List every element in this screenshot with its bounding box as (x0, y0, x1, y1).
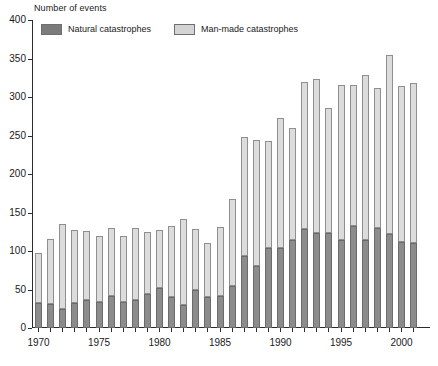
bar-segment-natural (410, 243, 417, 328)
bar-stack (156, 230, 163, 328)
bar-stack (83, 231, 90, 328)
x-tick-mark (50, 328, 51, 332)
chart-container: Number of events Natural catastrophes Ma… (0, 0, 438, 366)
x-tick-mark (159, 328, 160, 332)
y-tick-label: 0 (20, 323, 26, 333)
bar-segment-manmade (325, 108, 332, 233)
bar-segment-manmade (338, 85, 345, 241)
bar-segment-manmade (108, 228, 115, 296)
x-tick-mark (280, 328, 281, 332)
bar-segment-natural (217, 296, 224, 328)
plot-area: 050100150200250300350400 197019751980198… (32, 20, 430, 328)
bar-segment-natural (83, 300, 90, 328)
bar-segment-natural (168, 297, 175, 328)
bar-segment-manmade (229, 199, 236, 286)
bar-stack (192, 229, 199, 328)
x-tick-mark (304, 328, 305, 332)
bar-stack (362, 75, 369, 328)
bar-segment-natural (253, 266, 260, 328)
bar-segment-manmade (144, 232, 151, 294)
bar-segment-manmade (192, 229, 199, 289)
bar-stack (313, 79, 320, 328)
bar-segment-natural (265, 248, 272, 328)
y-tick-label: 50 (15, 285, 26, 295)
x-tick-label: 1975 (88, 338, 110, 348)
bar-segment-manmade (47, 239, 54, 304)
bar-stack (289, 128, 296, 328)
bar-stack (132, 228, 139, 328)
bar-segment-manmade (386, 55, 393, 234)
bar-stack (241, 137, 248, 328)
bar-segment-manmade (96, 236, 103, 302)
bar-stack (277, 118, 284, 328)
bar-segment-natural (398, 242, 405, 328)
x-tick-label: 1985 (209, 338, 231, 348)
x-tick-label: 2000 (390, 338, 412, 348)
bar-stack (374, 88, 381, 328)
bar-stack (229, 199, 236, 328)
bar-stack (168, 226, 175, 328)
bar-segment-natural (313, 233, 320, 328)
bar-segment-manmade (180, 219, 187, 305)
bar-stack (180, 219, 187, 328)
y-tick-label: 100 (9, 246, 26, 256)
bar-segment-manmade (120, 236, 127, 302)
x-tick-mark (111, 328, 112, 332)
bar-segment-manmade (168, 226, 175, 297)
x-tick-mark (38, 328, 39, 332)
x-tick-mark (135, 328, 136, 332)
bar-segment-natural (144, 294, 151, 328)
bar-segment-manmade (313, 79, 320, 233)
x-tick-mark (232, 328, 233, 332)
x-tick-mark (183, 328, 184, 332)
bar-segment-natural (241, 256, 248, 328)
bar-stack (144, 232, 151, 328)
y-tick-mark (28, 328, 32, 329)
bar-segment-natural (35, 303, 42, 328)
x-tick-mark (147, 328, 148, 332)
x-tick-mark (292, 328, 293, 332)
x-tick-mark (377, 328, 378, 332)
x-tick-mark (62, 328, 63, 332)
y-tick-label: 200 (9, 169, 26, 179)
y-tick-label: 350 (9, 54, 26, 64)
bar-segment-manmade (132, 228, 139, 300)
bar-segment-natural (156, 288, 163, 328)
x-tick-mark (220, 328, 221, 332)
bar-segment-natural (386, 234, 393, 328)
bar-segment-natural (192, 290, 199, 329)
bar-stack (265, 141, 272, 328)
bar-segment-natural (362, 240, 369, 328)
bar-segment-manmade (362, 75, 369, 240)
bar-stack (325, 108, 332, 328)
bar-segment-natural (180, 305, 187, 328)
bar-segment-natural (132, 300, 139, 328)
x-tick-mark (74, 328, 75, 332)
bar-segment-manmade (204, 243, 211, 297)
y-tick-label: 300 (9, 92, 26, 102)
bar-segment-manmade (35, 253, 42, 304)
x-tick-mark (401, 328, 402, 332)
bar-stack (108, 228, 115, 328)
x-tick-mark (316, 328, 317, 332)
bar-segment-manmade (350, 85, 357, 227)
x-tick-mark (268, 328, 269, 332)
bar-segment-natural (120, 302, 127, 328)
bar-segment-manmade (301, 82, 308, 230)
x-tick-mark (328, 328, 329, 332)
bar-stack (301, 82, 308, 328)
bar-segment-natural (277, 248, 284, 328)
y-tick-label: 250 (9, 131, 26, 141)
x-tick-mark (86, 328, 87, 332)
x-tick-mark (99, 328, 100, 332)
bar-segment-natural (204, 297, 211, 328)
y-axis-title: Number of events (34, 3, 107, 13)
bar-stack (217, 227, 224, 328)
x-tick-mark (389, 328, 390, 332)
y-tick-label: 150 (9, 208, 26, 218)
bar-segment-manmade (289, 128, 296, 240)
bar-stack (410, 83, 417, 328)
x-tick-mark (244, 328, 245, 332)
bar-segment-manmade (71, 230, 78, 303)
bar-stack (338, 85, 345, 328)
